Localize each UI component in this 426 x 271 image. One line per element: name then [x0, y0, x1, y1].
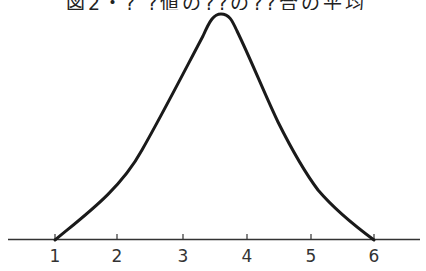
x-tick-label: 4 [242, 246, 253, 266]
chart-canvas: 1 2 3 4 5 6 [0, 0, 426, 271]
x-tick-label: 3 [178, 246, 189, 266]
x-tick-label: 1 [50, 246, 61, 266]
x-tick-labels: 1 2 3 4 5 6 [50, 246, 380, 266]
x-tick-label: 6 [369, 246, 380, 266]
distribution-curve [55, 14, 374, 240]
x-tick-label: 2 [112, 246, 123, 266]
x-tick-label: 5 [306, 246, 317, 266]
